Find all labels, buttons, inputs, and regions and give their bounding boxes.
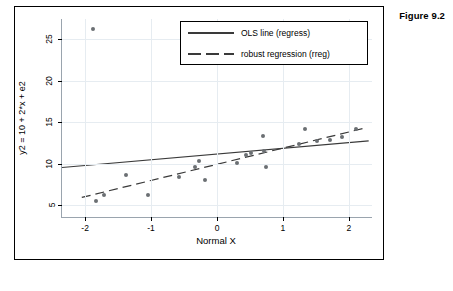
legend-entry-ols: OLS line (regress) <box>181 22 367 44</box>
x-axis-tick <box>349 217 350 221</box>
gridline-horizontal <box>62 205 372 206</box>
plot-frame: -2-1012510152025 Normal X y2 = 10 + 2*x … <box>14 6 384 260</box>
figure-caption: Figure 9.2 <box>399 10 445 21</box>
data-point <box>340 135 344 139</box>
x-axis-label: Normal X <box>61 235 371 246</box>
x-axis-tick-label: -2 <box>81 223 89 233</box>
data-point <box>235 161 239 165</box>
y-axis-tick <box>58 205 62 206</box>
x-axis-tick-label: 0 <box>215 223 220 233</box>
data-point <box>328 138 332 142</box>
legend: OLS line (regress) robust regression (rr… <box>180 21 368 65</box>
x-axis-tick-label: -1 <box>147 223 155 233</box>
data-point <box>146 193 150 197</box>
y-axis-tick-label: 15 <box>44 117 54 126</box>
y-axis-tick-label: 20 <box>44 76 54 85</box>
y-axis-tick <box>58 39 62 40</box>
y-axis-label: y2 = 10 + 2*x + e2 <box>17 81 27 154</box>
data-point <box>262 149 266 153</box>
data-point <box>315 139 319 143</box>
data-point <box>354 127 358 131</box>
x-axis-tick <box>85 217 86 221</box>
x-axis-tick <box>151 217 152 221</box>
data-point <box>303 127 307 131</box>
y-axis-tick <box>58 122 62 123</box>
gridline-horizontal <box>62 122 372 123</box>
data-point <box>297 142 301 146</box>
y-axis-tick-label: 5 <box>47 203 57 208</box>
y-axis-tick <box>58 164 62 165</box>
gridline-vertical <box>151 19 152 217</box>
data-point <box>244 153 248 157</box>
legend-label-ols: OLS line (regress) <box>241 28 310 38</box>
data-point <box>261 134 265 138</box>
legend-swatch-solid <box>188 27 234 39</box>
legend-label-rreg: robust regression (rreg) <box>241 49 330 59</box>
data-point <box>102 193 106 197</box>
x-axis-tick-label: 1 <box>281 223 286 233</box>
gridline-vertical <box>85 19 86 217</box>
x-axis-tick <box>217 217 218 221</box>
y-axis-tick-label: 25 <box>44 34 54 43</box>
gridline-horizontal <box>62 164 372 165</box>
x-axis-tick-label: 2 <box>347 223 352 233</box>
data-point <box>91 27 95 31</box>
legend-entry-rreg: robust regression (rreg) <box>181 43 367 65</box>
y-axis-tick <box>58 81 62 82</box>
x-axis-tick <box>283 217 284 221</box>
legend-swatch-dashed <box>188 48 234 60</box>
data-point <box>124 173 128 177</box>
figure-root: Figure 9.2 -2-1012510152025 Normal X y2 … <box>0 0 453 291</box>
y-axis-tick-label: 10 <box>44 159 54 168</box>
data-point <box>203 178 207 182</box>
data-point <box>264 165 268 169</box>
data-point <box>193 165 197 169</box>
gridline-horizontal <box>62 81 372 82</box>
data-point <box>197 159 201 163</box>
data-point <box>94 199 98 203</box>
data-point <box>177 175 181 179</box>
data-point <box>249 151 253 155</box>
